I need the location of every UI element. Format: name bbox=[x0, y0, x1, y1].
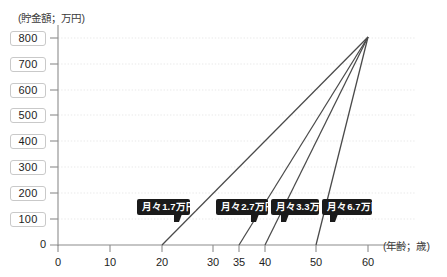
x-tick-label-20: 20 bbox=[150, 256, 174, 268]
annotation-callout-3: 月々3.3万円 bbox=[271, 199, 319, 215]
x-tick-label-10: 10 bbox=[98, 256, 122, 268]
y-tick-label-300: 300 bbox=[10, 160, 46, 175]
x-tick-label-50: 50 bbox=[304, 256, 328, 268]
annotation-callout-4: 月々6.7万円 bbox=[322, 199, 372, 215]
y-axis bbox=[50, 25, 58, 246]
annotation-tail-4 bbox=[330, 214, 338, 222]
y-tick-label-400: 400 bbox=[10, 134, 46, 149]
x-tick-label-40: 40 bbox=[253, 256, 277, 268]
y-tick-label-500: 500 bbox=[10, 108, 46, 123]
y-tick-label-200: 200 bbox=[10, 186, 46, 201]
x-axis bbox=[50, 245, 404, 252]
chart-canvas bbox=[0, 0, 447, 277]
y-tick-label-0: 0 bbox=[26, 238, 46, 250]
savings-growth-chart: (貯金額；万円) (年齢；歳) 800 700 600 500 400 300 … bbox=[0, 0, 447, 277]
x-tick-label-35: 35 bbox=[227, 256, 251, 268]
annotation-tail-3 bbox=[281, 214, 289, 222]
y-tick-label-800: 800 bbox=[10, 31, 46, 46]
annotation-tail-2 bbox=[251, 214, 259, 222]
y-axis-title: (貯金額；万円) bbox=[18, 10, 85, 25]
annotation-callout-2: 月々2.7万円 bbox=[216, 199, 268, 215]
x-tick-label-0: 0 bbox=[46, 256, 70, 268]
y-tick-label-100: 100 bbox=[10, 212, 46, 227]
y-tick-label-700: 700 bbox=[10, 57, 46, 72]
x-axis-title: (年齢；歳) bbox=[383, 238, 430, 253]
annotation-callout-1: 月々1.7万円 bbox=[137, 199, 190, 215]
x-tick-label-30: 30 bbox=[201, 256, 225, 268]
annotation-tail-1 bbox=[174, 214, 182, 222]
x-tick-label-60: 60 bbox=[356, 256, 380, 268]
y-tick-label-600: 600 bbox=[10, 83, 46, 98]
